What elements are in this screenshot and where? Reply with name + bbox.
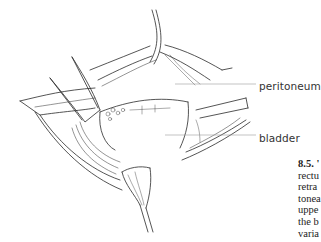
caption-line: tonea	[298, 193, 321, 205]
caption-line: 8.5. '	[298, 158, 321, 170]
surgical-illustration	[0, 0, 321, 242]
label-peritoneum: peritoneum	[259, 80, 321, 92]
label-bladder: bladder	[259, 132, 300, 144]
caption-line: retra	[298, 181, 321, 193]
caption-line: uppe	[298, 204, 321, 216]
caption-line: rectu	[298, 170, 321, 182]
caption-line: varia	[298, 228, 321, 240]
figure-caption: 8.5. ' rectu retra tonea uppe the b vari…	[298, 158, 321, 239]
caption-line: the b	[298, 216, 321, 228]
